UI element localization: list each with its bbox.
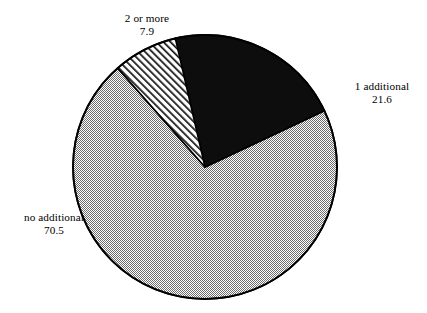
pie-label-no-additional-value: 70.5 [2,224,106,237]
pie-chart-svg [0,0,427,313]
pie-label-two-or-more-value: 7.9 [92,25,202,38]
pie-label-no-additional: no additional 70.5 [2,211,106,237]
pie-chart-figure: 2 or more 7.9 1 additional 21.6 no addit… [0,0,427,313]
pie-label-one-additional-value: 21.6 [336,93,427,106]
pie-label-no-additional-name: no additional [2,211,106,224]
pie-label-one-additional-name: 1 additional [336,80,427,93]
pie-label-two-or-more-name: 2 or more [92,12,202,25]
pie-label-one-additional: 1 additional 21.6 [336,80,427,106]
pie-label-two-or-more: 2 or more 7.9 [92,12,202,38]
